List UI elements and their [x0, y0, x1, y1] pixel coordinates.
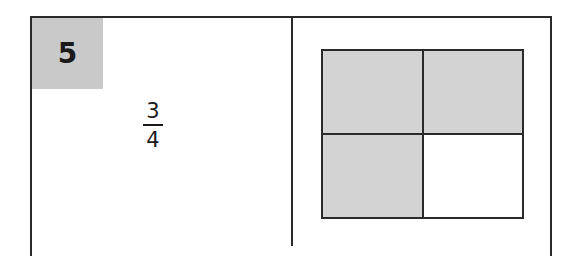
fraction: 3 4: [138, 100, 168, 151]
grid-cell[interactable]: [323, 51, 423, 134]
fraction-numerator: 3: [146, 100, 159, 122]
fraction-model-grid: [321, 49, 524, 219]
grid-cell[interactable]: [423, 51, 523, 134]
column-divider: [291, 16, 293, 246]
problem-number-badge: 5: [32, 18, 103, 89]
grid-cell[interactable]: [423, 134, 523, 217]
grid-cell[interactable]: [323, 134, 423, 217]
fraction-bar: [143, 124, 163, 126]
fraction-denominator: 4: [146, 129, 159, 151]
problem-number: 5: [58, 37, 77, 70]
